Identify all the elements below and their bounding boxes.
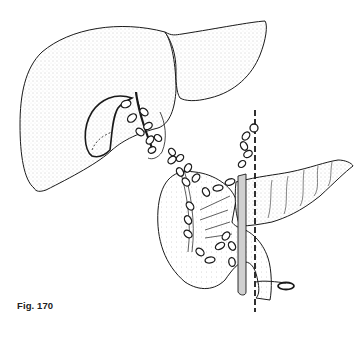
figure-caption: Fig. 170 [17, 300, 53, 311]
portal-vein [238, 174, 246, 295]
pancreas [235, 160, 353, 226]
liver-left-lobe [165, 21, 266, 101]
anatomical-illustration [0, 0, 363, 337]
liver-right-lobe [20, 26, 176, 191]
duodenum-cut-end [278, 283, 294, 290]
